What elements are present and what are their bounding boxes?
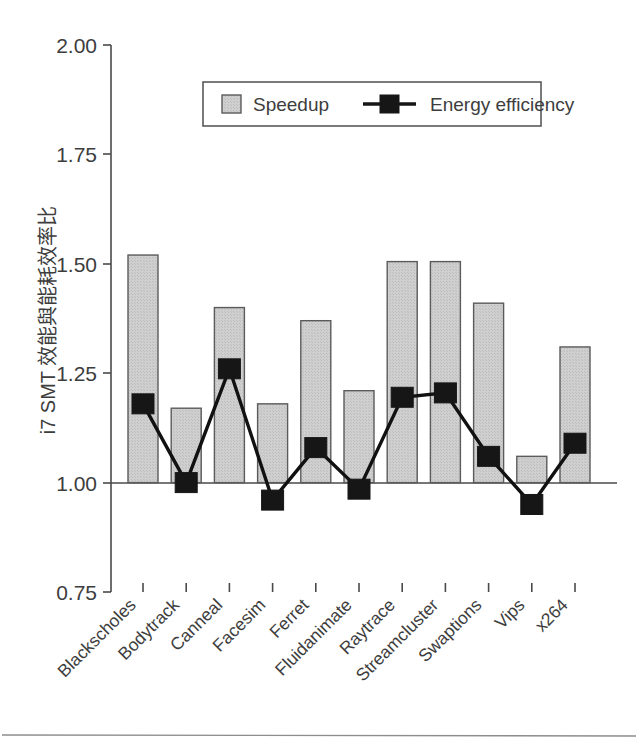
- legend-marker-energy-efficiency: [380, 95, 399, 113]
- marker-canneal: [218, 359, 240, 379]
- bar-streamcluster: [430, 262, 460, 483]
- marker-bodytrack: [175, 473, 197, 493]
- y-tick-label-1-00: 1.00: [56, 472, 97, 495]
- bottom-divider: [2, 735, 636, 736]
- x-label-vips: Vips: [491, 595, 529, 633]
- bar-x264: [560, 347, 590, 483]
- marker-streamcluster: [434, 383, 456, 403]
- y-axis-title: i7 SMT 效能與能耗效率比: [37, 206, 59, 435]
- marker-facesim: [262, 490, 284, 510]
- marker-swaptions: [478, 446, 500, 466]
- y-tick-label-0-75: 0.75: [56, 581, 97, 604]
- y-tick-label-1-50: 1.50: [56, 253, 97, 276]
- legend-swatch-speedup: [222, 95, 241, 113]
- legend-label-speedup: Speedup: [253, 94, 329, 115]
- y-tick-label-2-00: 2.00: [56, 34, 97, 57]
- marker-fluidanimate: [348, 479, 370, 499]
- bar-raytrace: [387, 262, 417, 483]
- marker-raytrace: [391, 387, 413, 407]
- figure-container: 2.00 1.75 1.50 1.25 1.00 0.75 i7 SMT 效能與…: [0, 0, 638, 747]
- marker-blackscholes: [132, 394, 154, 414]
- x-axis-ticks: [111, 583, 617, 592]
- bar-series-speedup: [128, 255, 590, 483]
- bar-vips: [517, 456, 547, 482]
- y-tick-label-1-25: 1.25: [56, 362, 97, 385]
- x-label-x264: x264: [531, 595, 572, 636]
- bar-blackscholes: [128, 255, 158, 483]
- y-tick-label-1-75: 1.75: [56, 143, 97, 166]
- bar-bodytrack: [171, 408, 201, 482]
- speedup-energy-efficiency-chart: 2.00 1.75 1.50 1.25 1.00 0.75 i7 SMT 效能與…: [0, 0, 638, 747]
- marker-vips: [521, 494, 543, 514]
- legend-label-energy-efficiency: Energy efficiency: [430, 94, 575, 115]
- marker-x264: [564, 433, 586, 453]
- x-axis-category-labels: BlackscholesBodytrackCannealFacesimFerre…: [53, 595, 572, 686]
- chart-legend[interactable]: Speedup Energy efficiency: [203, 82, 575, 126]
- y-axis-ticks: [103, 45, 111, 592]
- marker-ferret: [305, 438, 327, 458]
- y-axis-tick-labels: 2.00 1.75 1.50 1.25 1.00 0.75: [56, 34, 97, 604]
